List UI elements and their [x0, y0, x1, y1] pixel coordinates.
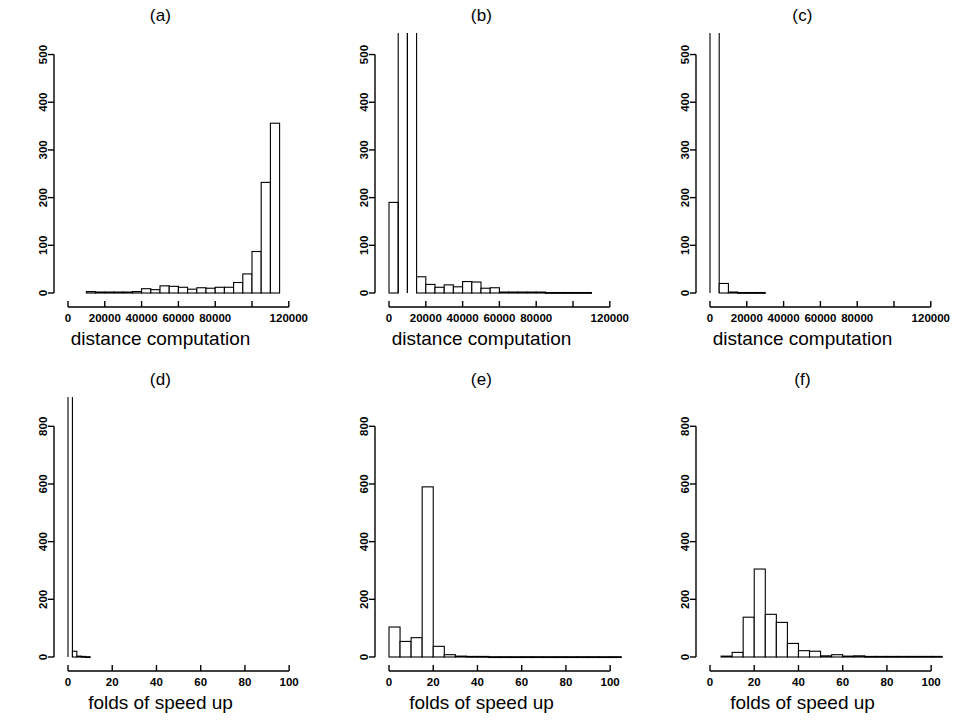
y-tick-label: 400 — [37, 93, 49, 112]
histogram-bar — [188, 289, 197, 293]
histogram-bar — [417, 277, 426, 293]
x-tick-label: 20 — [427, 676, 440, 688]
bars-group — [721, 569, 942, 657]
y-tick-label: 0 — [679, 653, 691, 659]
x-tick-label: 80000 — [199, 312, 231, 324]
panel-f: (f) 0200400600800020406080100 folds of s… — [642, 364, 963, 727]
histogram-bar — [721, 656, 732, 657]
y-tick-label: 200 — [358, 589, 370, 608]
histogram-bar — [499, 292, 508, 293]
panel-f-plot: 0200400600800020406080100 — [642, 364, 963, 694]
histogram-bar — [756, 293, 765, 294]
x-tick-label: 60 — [515, 676, 528, 688]
y-tick-label: 0 — [679, 290, 691, 296]
histogram-bar — [224, 287, 233, 293]
y-tick-label: 800 — [679, 416, 691, 435]
x-tick-label: 20000 — [410, 312, 442, 324]
y-tick-label: 100 — [358, 236, 370, 255]
y-tick-label: 500 — [37, 45, 49, 64]
histogram-bar — [854, 655, 865, 656]
histogram-bar — [810, 651, 821, 657]
histogram-bar — [243, 274, 252, 293]
histogram-bar — [582, 293, 591, 294]
x-tick-label: 0 — [386, 676, 392, 688]
bars-group — [389, 33, 591, 293]
x-tick-label: 0 — [707, 312, 713, 324]
histogram-bar — [114, 292, 123, 293]
histogram-bar — [887, 656, 898, 657]
histogram-bar — [472, 282, 481, 293]
histogram-bar — [747, 293, 756, 294]
panel-c: (c) 010020030040050002000040000600008000… — [642, 0, 963, 364]
histogram-bar — [821, 655, 832, 656]
panel-a-plot: 0100200300400500020000400006000080000120… — [0, 0, 321, 330]
x-tick-label: 20 — [106, 676, 119, 688]
histogram-bar — [719, 283, 728, 293]
panel-a-xlabel: distance computation — [0, 328, 321, 350]
x-axis: 020406080100 — [707, 665, 941, 688]
histogram-bar — [518, 292, 527, 293]
y-tick-label: 400 — [679, 93, 691, 112]
histogram-bar — [765, 614, 776, 657]
histogram-bar — [776, 622, 787, 657]
y-tick-label: 300 — [679, 140, 691, 159]
x-tick-label: 0 — [386, 312, 392, 324]
histogram-bar — [544, 656, 555, 657]
histogram-bar — [500, 656, 511, 657]
panel-d: (d) 0200400600800020406080100 folds of s… — [0, 364, 321, 727]
histogram-bar — [577, 656, 588, 657]
y-tick-label: 300 — [37, 140, 49, 159]
histogram-bar-clipped — [407, 33, 416, 293]
y-axis: 0100200300400500 — [679, 45, 696, 296]
bars-group — [389, 486, 621, 657]
histogram-bar — [105, 292, 114, 293]
histogram-bar — [206, 288, 215, 293]
x-tick-label: 80 — [239, 676, 252, 688]
histogram-bar — [261, 182, 270, 293]
histogram-bar — [743, 617, 754, 657]
histogram-bar — [865, 656, 876, 657]
histogram-bar — [453, 287, 462, 293]
histogram-bar — [898, 656, 909, 657]
x-tick-label: 60000 — [162, 312, 194, 324]
y-axis: 0100200300400500 — [37, 45, 54, 296]
histogram-bar — [732, 652, 743, 657]
histogram-bar — [522, 656, 533, 657]
histogram-bar — [444, 654, 455, 656]
histogram-bar — [86, 656, 90, 657]
histogram-bar — [86, 292, 95, 293]
histogram-bar — [132, 292, 141, 293]
bars-group — [710, 33, 765, 293]
x-tick-label: 40000 — [126, 312, 158, 324]
x-tick-label: 40000 — [768, 312, 800, 324]
histogram-bar — [234, 283, 243, 293]
histogram-bar — [477, 656, 488, 657]
histogram-bar — [197, 288, 206, 293]
x-tick-label: 100 — [922, 676, 941, 688]
y-tick-label: 0 — [358, 290, 370, 296]
histogram-bar — [920, 656, 931, 657]
histogram-bar — [573, 293, 582, 294]
x-tick-label: 20 — [748, 676, 761, 688]
y-tick-label: 0 — [37, 290, 49, 296]
x-tick-label: 80000 — [520, 312, 552, 324]
histogram-bar — [489, 656, 500, 657]
histogram-bar — [481, 288, 490, 293]
x-tick-label: 20000 — [731, 312, 763, 324]
x-tick-label: 60 — [194, 676, 207, 688]
histogram-bar — [96, 292, 105, 293]
histogram-bar — [599, 656, 610, 657]
y-tick-label: 800 — [358, 416, 370, 435]
histogram-bar — [411, 637, 422, 656]
panel-c-xlabel: distance computation — [642, 328, 963, 350]
histogram-bar — [463, 282, 472, 293]
histogram-bar — [81, 656, 85, 657]
histogram-bar — [215, 287, 224, 293]
x-axis: 020000400006000080000120000 — [386, 301, 629, 324]
histogram-bar — [610, 656, 621, 657]
x-tick-label: 40000 — [447, 312, 479, 324]
x-axis: 020406080100 — [386, 665, 620, 688]
panel-f-xlabel: folds of speed up — [642, 692, 963, 714]
histogram-bar — [509, 292, 518, 293]
histogram-figure-panel-grid: (a) 010020030040050002000040000600008000… — [0, 0, 963, 727]
